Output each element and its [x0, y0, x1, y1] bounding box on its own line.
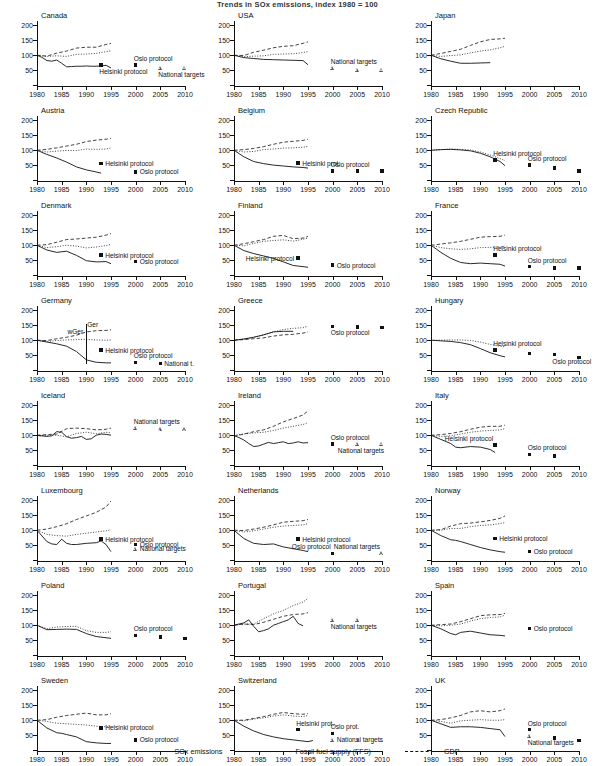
x-axis-tick: [333, 371, 334, 375]
y-axis-label: 200: [11, 212, 33, 219]
marker-annotation: Helsinki protocol: [246, 255, 294, 262]
marker-square: [577, 266, 580, 269]
y-axis-label: 50: [405, 637, 427, 644]
x-axis-tick: [111, 466, 112, 470]
y-axis-label: 50: [405, 162, 427, 169]
panel-title: Luxembourg: [41, 486, 83, 495]
chart-panel-canada: Canada5010015020019801985199019952000200…: [1, 9, 198, 104]
marker-annotation: Helsinki protocol: [105, 724, 153, 731]
x-axis-tick: [357, 276, 358, 280]
x-axis-tick: [431, 561, 432, 565]
x-axis-label: 1995: [103, 661, 119, 669]
x-axis-label: 2010: [177, 281, 193, 289]
x-axis-tick: [530, 561, 531, 565]
panel-title: Norway: [435, 486, 460, 495]
marker-square: [99, 253, 102, 256]
x-axis-tick: [37, 86, 38, 90]
x-axis-label: 1990: [79, 376, 95, 384]
panel-title: Sweden: [41, 676, 68, 685]
marker-square: [296, 728, 299, 731]
region-label: Ger: [87, 321, 98, 328]
x-axis-label: 1985: [448, 91, 464, 99]
x-axis-label: 2010: [374, 661, 390, 669]
x-axis-tick: [185, 181, 186, 185]
marker-square: [134, 543, 137, 546]
x-axis-label: 2000: [128, 186, 144, 194]
page-title: Trends in SOx emissions, index 1980 = 10…: [0, 0, 595, 9]
panel-title: Iceland: [41, 391, 65, 400]
series-solid: [431, 55, 490, 63]
x-axis-label: 1985: [251, 471, 267, 479]
x-axis-tick: [234, 86, 235, 90]
marker-annotation: National targets: [338, 447, 384, 454]
y-axis-label: 200: [405, 22, 427, 29]
x-axis-tick: [480, 276, 481, 280]
x-axis-label: 1990: [276, 566, 292, 574]
x-axis-tick: [111, 86, 112, 90]
x-axis-tick: [431, 86, 432, 90]
marker-triangle: [379, 68, 383, 72]
x-axis-tick: [136, 276, 137, 280]
x-axis-tick: [86, 276, 87, 280]
series-lines: [37, 401, 185, 465]
x-axis-label: 2000: [128, 566, 144, 574]
y-axis-label: 150: [11, 227, 33, 234]
marker-square: [331, 263, 334, 266]
panel-title: Greece: [238, 296, 263, 305]
x-axis-tick: [456, 656, 457, 660]
chart-panel-france: France5010015020019801985199019952000200…: [395, 199, 592, 294]
legend-label: Fossil fuel supply (FFS): [295, 747, 371, 756]
series-lines: [234, 21, 382, 85]
marker-annotation: National targets: [140, 545, 186, 552]
series-dashed: [431, 235, 505, 245]
y-axis-label: 50: [11, 542, 33, 549]
marker-square: [134, 361, 137, 364]
marker-annotation: Helsinki protocol: [445, 435, 493, 442]
y-axis-label: 150: [11, 417, 33, 424]
x-axis-label: 1990: [276, 661, 292, 669]
marker-square: [99, 537, 102, 540]
x-axis-label: 1985: [54, 186, 70, 194]
marker-square: [99, 348, 102, 351]
x-axis-tick: [456, 181, 457, 185]
marker-annotation: Oslo protocol: [134, 55, 173, 62]
x-axis-tick: [333, 656, 334, 660]
x-axis-tick: [185, 371, 186, 375]
x-axis-tick: [160, 86, 161, 90]
series-lines: [37, 211, 185, 275]
x-axis-tick: [480, 561, 481, 565]
y-axis-label: 50: [11, 447, 33, 454]
x-axis-tick: [456, 371, 457, 375]
x-axis-tick: [111, 656, 112, 660]
panel-title: Ireland: [238, 391, 261, 400]
x-axis-tick: [259, 86, 260, 90]
y-axis-label: 150: [208, 37, 230, 44]
panel-title: Japan: [435, 11, 455, 20]
x-axis-label: 1985: [251, 186, 267, 194]
x-axis-label: 2000: [128, 471, 144, 479]
panel-title: Switzerland: [238, 676, 277, 685]
x-axis-label: 1985: [54, 91, 70, 99]
x-axis-tick: [530, 86, 531, 90]
y-axis-label: 150: [405, 322, 427, 329]
marker-annotation: Oslo protocol: [134, 625, 173, 632]
marker-square: [159, 635, 162, 638]
x-axis-tick: [382, 86, 383, 90]
x-axis-tick: [160, 466, 161, 470]
x-axis-label: 2005: [153, 91, 169, 99]
x-axis-tick: [530, 371, 531, 375]
panel-title: Italy: [435, 391, 449, 400]
x-axis-label: 2010: [571, 281, 587, 289]
x-axis-tick: [505, 86, 506, 90]
y-axis-label: 150: [208, 132, 230, 139]
x-axis-tick: [283, 466, 284, 470]
x-axis-label: 2010: [177, 661, 193, 669]
y-axis-label: 100: [208, 337, 230, 344]
marker-annotation: Oslo protocol: [331, 329, 370, 336]
series-dashed: [234, 613, 308, 626]
x-axis-label: 2010: [177, 186, 193, 194]
x-axis-label: 1990: [79, 91, 95, 99]
marker-square: [183, 637, 186, 640]
legend-swatch-solid: [135, 751, 169, 752]
panel-grid: Canada5010015020019801985199019952000200…: [1, 9, 592, 766]
